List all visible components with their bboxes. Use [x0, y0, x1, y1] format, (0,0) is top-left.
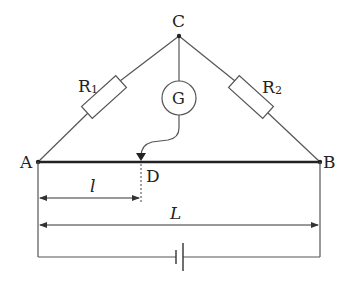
svg-text:R: R	[78, 76, 92, 96]
svg-text:2: 2	[275, 84, 282, 97]
label-d: D	[146, 166, 160, 186]
bridge-circuit-diagram: C A B D G R 1 R 2 l L	[0, 0, 356, 299]
label-L: L	[169, 203, 181, 223]
label-c: C	[172, 11, 185, 31]
battery-loop	[38, 243, 320, 271]
galvanometer-branch	[136, 36, 196, 161]
label-g: G	[172, 89, 185, 108]
sliding-contact-arrow-icon	[136, 153, 146, 161]
label-l: l	[90, 176, 95, 196]
label-r1: R 1	[78, 76, 98, 96]
label-r2: R 2	[262, 77, 282, 97]
branch-cb	[179, 36, 320, 162]
svg-text:R: R	[262, 77, 276, 97]
label-a: A	[19, 152, 33, 172]
battery-icon	[176, 243, 183, 271]
label-b: B	[323, 152, 336, 172]
branch-ac	[38, 36, 179, 162]
node-c-dot	[177, 34, 181, 38]
svg-text:1: 1	[91, 83, 98, 96]
